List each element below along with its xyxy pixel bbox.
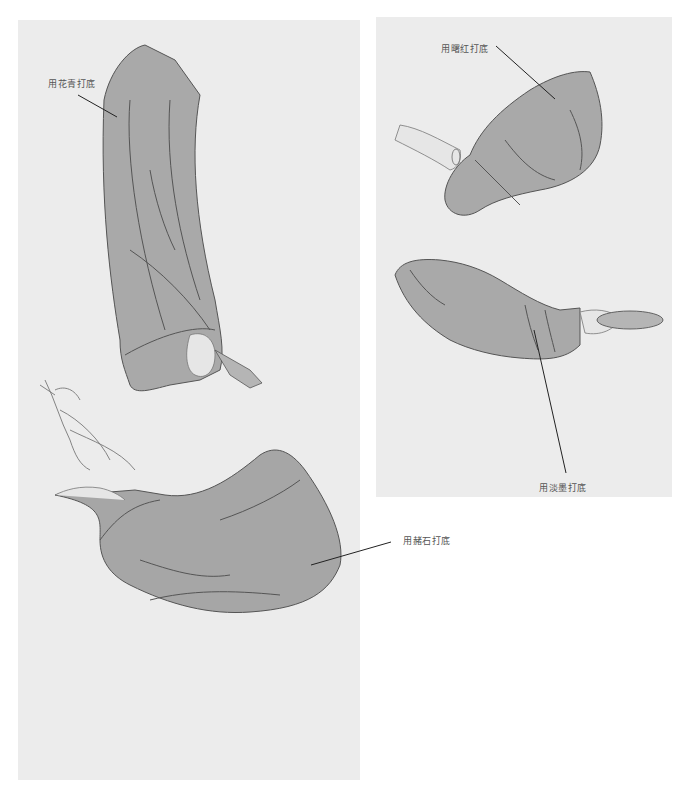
label-danmo: 用淡墨打底 (539, 481, 587, 494)
left-upper-sleeve (103, 45, 262, 391)
illustration-artwork (0, 0, 686, 785)
right-lower-sleeve (395, 260, 663, 359)
label-huaqing: 用花青打底 (48, 77, 96, 90)
label-zheshi: 用赭石打底 (403, 534, 451, 547)
right-upper-sleeve (395, 72, 602, 216)
left-lower-sleeve (55, 450, 341, 613)
label-shuhong: 用曙红打底 (441, 42, 489, 55)
left-branch (40, 380, 135, 470)
leader-line-shuhong (496, 46, 555, 99)
